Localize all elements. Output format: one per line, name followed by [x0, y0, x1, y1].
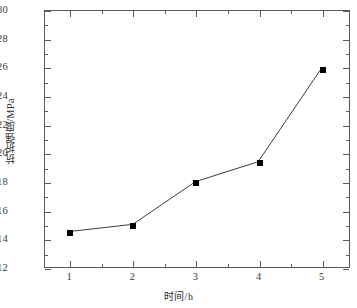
y-axis-tick — [45, 11, 51, 12]
y-axis-tick-label: 14 — [0, 234, 8, 244]
x-axis-tick-label: 4 — [246, 272, 272, 282]
y-axis-minor-tick — [346, 197, 349, 198]
y-axis-tick-label: 18 — [0, 177, 8, 187]
y-axis-tick — [45, 68, 51, 69]
y-axis-tick — [343, 40, 349, 41]
y-axis-minor-tick — [45, 54, 48, 55]
x-axis-tick — [196, 261, 197, 267]
y-axis-tick-label: 24 — [0, 91, 8, 101]
x-axis-minor-tick — [291, 11, 292, 14]
y-axis-minor-tick — [45, 197, 48, 198]
y-axis-tick-label: 12 — [0, 263, 8, 273]
x-axis-tick — [323, 11, 324, 17]
y-axis-minor-tick — [45, 25, 48, 26]
series-line — [70, 69, 321, 231]
y-axis-tick-label: 20 — [0, 148, 8, 158]
y-axis-tick — [343, 269, 349, 270]
y-axis-tick-label: 28 — [0, 34, 8, 44]
y-axis-tick — [45, 240, 51, 241]
y-axis-minor-tick — [346, 111, 349, 112]
y-axis-tick — [45, 269, 51, 270]
y-axis-tick — [343, 11, 349, 12]
y-axis-tick — [45, 183, 51, 184]
chart-figure: 抗折强度/MPa 时间/h 1214161820222426283012345 — [0, 0, 357, 308]
y-axis-tick — [343, 212, 349, 213]
y-axis-minor-tick — [45, 226, 48, 227]
x-axis-tick-label: 2 — [119, 272, 145, 282]
data-point-marker — [320, 67, 326, 73]
y-axis-minor-tick — [346, 255, 349, 256]
y-axis-minor-tick — [45, 140, 48, 141]
x-axis-tick — [260, 11, 261, 17]
y-axis-tick — [45, 154, 51, 155]
y-axis-tick — [45, 40, 51, 41]
x-axis-minor-tick — [102, 264, 103, 267]
y-axis-minor-tick — [45, 169, 48, 170]
x-axis-tick-label: 5 — [309, 272, 335, 282]
y-axis-tick-label: 16 — [0, 206, 8, 216]
y-axis-tick — [45, 126, 51, 127]
x-axis-tick — [260, 261, 261, 267]
y-axis-tick — [343, 126, 349, 127]
y-axis-tick — [343, 240, 349, 241]
y-axis-tick-label: 22 — [0, 120, 8, 130]
y-axis-minor-tick — [346, 83, 349, 84]
plot-area — [44, 10, 350, 268]
y-axis-minor-tick — [346, 25, 349, 26]
y-axis-minor-tick — [45, 111, 48, 112]
y-axis-tick — [45, 212, 51, 213]
y-axis-minor-tick — [45, 255, 48, 256]
y-axis-tick — [343, 183, 349, 184]
y-axis-tick-label: 30 — [0, 5, 8, 15]
x-axis-minor-tick — [291, 264, 292, 267]
y-axis-tick — [343, 97, 349, 98]
x-axis-tick-label: 1 — [56, 272, 82, 282]
y-axis-minor-tick — [45, 83, 48, 84]
y-axis-minor-tick — [346, 226, 349, 227]
x-axis-tick — [70, 261, 71, 267]
x-axis-tick-label: 3 — [182, 272, 208, 282]
y-axis-tick — [343, 154, 349, 155]
data-point-marker — [130, 223, 136, 229]
x-axis-tick — [323, 261, 324, 267]
y-axis-minor-tick — [346, 54, 349, 55]
series-layer — [45, 11, 349, 267]
x-axis-tick — [133, 261, 134, 267]
y-axis-tick — [343, 68, 349, 69]
data-point-marker — [257, 160, 263, 166]
y-axis-minor-tick — [346, 169, 349, 170]
x-axis-tick — [133, 11, 134, 17]
x-axis-title: 时间/h — [0, 288, 357, 303]
x-axis-minor-tick — [165, 11, 166, 14]
x-axis-minor-tick — [102, 11, 103, 14]
data-point-marker — [193, 180, 199, 186]
y-axis-tick-label: 26 — [0, 62, 8, 72]
x-axis-minor-tick — [228, 11, 229, 14]
data-point-marker — [67, 230, 73, 236]
x-axis-minor-tick — [228, 264, 229, 267]
y-axis-tick — [45, 97, 51, 98]
y-axis-minor-tick — [346, 140, 349, 141]
x-axis-minor-tick — [165, 264, 166, 267]
x-axis-tick — [196, 11, 197, 17]
x-axis-tick — [70, 11, 71, 17]
